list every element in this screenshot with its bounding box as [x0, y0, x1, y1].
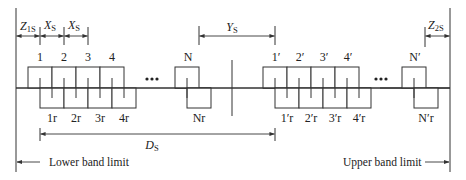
svg-text:YS: YS	[226, 20, 238, 35]
svg-text:3′: 3′	[320, 50, 329, 64]
svg-text:Upper band limit: Upper band limit	[343, 156, 422, 169]
ds-dimension: DS	[40, 128, 275, 153]
upper-ellipsis	[374, 77, 387, 80]
svg-text:N′: N′	[409, 50, 421, 64]
ys-dimension: YS	[199, 20, 275, 45]
svg-text:2′: 2′	[296, 50, 305, 64]
channel-Nr-box	[187, 88, 211, 108]
frequency-plan-diagram: 1 2 3 4 N 1′ 2′ 3′ 4′ N′ 1r 2r 3r 4r Nr …	[0, 0, 466, 180]
svg-text:3′r: 3′r	[329, 111, 342, 125]
svg-text:Lower band limit: Lower band limit	[49, 156, 130, 168]
lower-transmit-channels	[28, 67, 124, 88]
svg-text:XS: XS	[67, 18, 80, 33]
svg-text:2′r: 2′r	[305, 111, 318, 125]
upper-receive-labels: 1′r 2′r 3′r 4′r N′r	[281, 111, 434, 125]
lower-receive-labels: 1r 2r 3r 4r Nr	[47, 111, 205, 125]
upper-transmit-channels	[263, 67, 359, 88]
svg-text:Nr: Nr	[193, 111, 206, 125]
svg-text:1: 1	[37, 50, 43, 64]
svg-text:2: 2	[61, 50, 67, 64]
lower-transmit-labels: 1 2 3 4 N	[37, 50, 193, 64]
svg-text:3r: 3r	[95, 111, 105, 125]
upper-receive-channels	[275, 88, 371, 108]
svg-text:4: 4	[109, 50, 115, 64]
lower-band-limit-label: Lower band limit	[17, 156, 130, 168]
upper-band-limit-label: Upper band limit	[343, 156, 449, 169]
svg-text:4′: 4′	[344, 50, 353, 64]
svg-text:4′r: 4′r	[353, 111, 366, 125]
svg-text:DS: DS	[144, 138, 159, 153]
svg-text:1′: 1′	[272, 50, 281, 64]
z1s-dimension: Z1S XS XS	[17, 18, 89, 45]
lower-ellipsis	[145, 77, 158, 80]
upper-transmit-labels: 1′ 2′ 3′ 4′ N′	[272, 50, 421, 64]
svg-text:N′r: N′r	[418, 111, 433, 125]
svg-text:XS: XS	[43, 18, 56, 33]
svg-text:1r: 1r	[47, 111, 57, 125]
svg-text:3: 3	[85, 50, 91, 64]
svg-text:N: N	[184, 50, 193, 64]
svg-text:1′r: 1′r	[281, 111, 294, 125]
lower-receive-channels	[40, 88, 136, 108]
channel-N-prime-r-box	[414, 88, 438, 108]
svg-text:Z2S: Z2S	[428, 18, 444, 33]
svg-text:Z1S: Z1S	[20, 19, 36, 34]
z2s-dimension: Z2S	[425, 18, 450, 47]
svg-text:2r: 2r	[71, 111, 81, 125]
svg-text:4r: 4r	[119, 111, 129, 125]
